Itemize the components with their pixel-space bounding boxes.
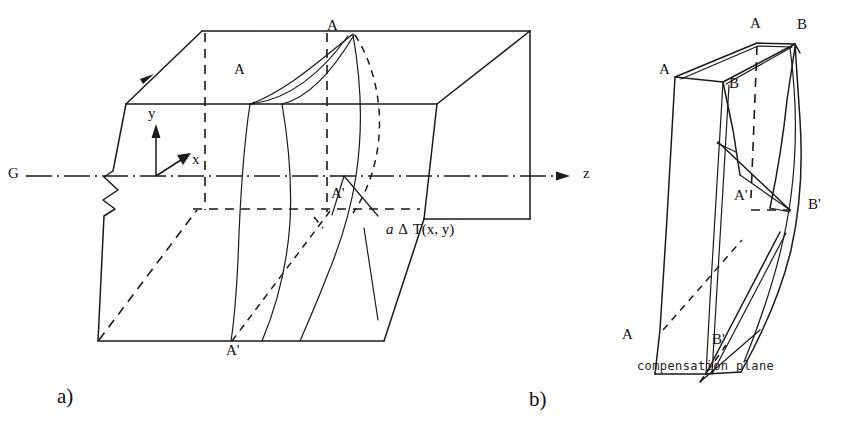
axis-label-y: y (148, 106, 156, 121)
panel-b-label-a-bottom-left: A (622, 327, 633, 342)
delta-t-coefficient: a (386, 221, 394, 237)
panel-caption-b: b) (529, 389, 547, 410)
panel-b-label-b-inner-upper: B (729, 76, 739, 91)
panel-b-label-a-prime-mid: A' (734, 188, 748, 203)
panel-b-label-a-top-center: A (750, 16, 761, 31)
wavefront-label-a-front: A (234, 62, 245, 77)
panel-b-label-b-prime-mid: B' (808, 197, 821, 212)
panel-b-label-b-prime-bottom: B' (712, 332, 725, 347)
wavefront-label-a-prime-mid: A' (331, 186, 345, 201)
delta-t-argument: (x, y) (422, 221, 455, 237)
delta-t-quantity: T (413, 221, 422, 237)
panel-caption-a: a) (57, 386, 73, 407)
delta-t-delta: Δ (398, 221, 408, 237)
axis-label-z: z (583, 166, 590, 181)
compensation-plane-caption: compensation plane (637, 360, 774, 372)
axis-label-x: x (192, 152, 200, 167)
panel-b-label-b-top-right: B (797, 17, 807, 32)
delta-t-annotation: a Δ T(x, y) (386, 222, 454, 237)
panel-b-hidden-lines (663, 46, 791, 382)
optical-axis-label-g: G (8, 166, 19, 181)
figure-root: G z y x A A A' A' a Δ T(x, y) a) A B A B… (0, 0, 853, 444)
panel-b-label-a-top-left: A (659, 62, 670, 77)
panel-b-body (655, 43, 801, 382)
wavefront-label-a-rear: A (327, 18, 338, 33)
wavefront-label-a-prime-bottom: A' (226, 343, 240, 358)
